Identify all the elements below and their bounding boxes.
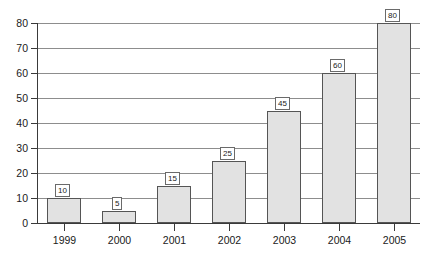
plot-area: 10 5 15 25 45 60 80: [37, 23, 420, 223]
x-tick-label-2001: 2001: [147, 234, 202, 246]
bar-value-label-2000: 5: [112, 197, 122, 210]
x-tick-label-2005: 2005: [367, 234, 422, 246]
y-tick-label: 50: [0, 92, 28, 104]
bar-2002[interactable]: [212, 161, 246, 224]
y-tick-label: 40: [0, 117, 28, 129]
y-tick-label: 70: [0, 42, 28, 54]
gridline-40: [37, 123, 420, 124]
y-tick-label: 0: [0, 217, 28, 229]
bar-value-label-2002: 25: [220, 147, 235, 160]
x-tick-label-1999: 1999: [37, 234, 92, 246]
x-tick-label-2003: 2003: [257, 234, 312, 246]
x-tick-mark: [229, 224, 230, 231]
bar-1999[interactable]: [47, 198, 81, 223]
bar-2003[interactable]: [267, 111, 301, 224]
y-tick-label: 80: [0, 17, 28, 29]
bar-2005[interactable]: [377, 23, 411, 223]
bar-value-label-2005: 80: [385, 9, 400, 22]
x-tick-mark: [64, 224, 65, 231]
bar-value-label-2004: 60: [330, 59, 345, 72]
y-axis-line: [37, 23, 38, 224]
bar-value-label-2001: 15: [165, 172, 180, 185]
y-tick-label: 10: [0, 192, 28, 204]
bar-value-label-2003: 45: [275, 97, 290, 110]
x-tick-mark: [119, 224, 120, 231]
bar-2001[interactable]: [157, 186, 191, 224]
x-tick-mark: [339, 224, 340, 231]
gridline-70: [37, 48, 420, 49]
gridline-50: [37, 98, 420, 99]
x-tick-label-2000: 2000: [92, 234, 147, 246]
x-tick-label-2002: 2002: [202, 234, 257, 246]
y-tick-label: 20: [0, 167, 28, 179]
x-tick-mark: [174, 224, 175, 231]
bar-value-label-1999: 10: [55, 184, 70, 197]
bar-2004[interactable]: [322, 73, 356, 223]
gridline-80: [37, 23, 420, 24]
x-tick-label-2004: 2004: [312, 234, 367, 246]
bar-2000[interactable]: [102, 211, 136, 224]
bar-chart: 80 70 60 50 40 30 20 10 0 10 5 15 25: [0, 0, 429, 255]
x-tick-mark: [394, 224, 395, 231]
x-tick-mark: [284, 224, 285, 231]
y-tick-label: 60: [0, 67, 28, 79]
gridline-60: [37, 73, 420, 74]
y-tick-label: 30: [0, 142, 28, 154]
